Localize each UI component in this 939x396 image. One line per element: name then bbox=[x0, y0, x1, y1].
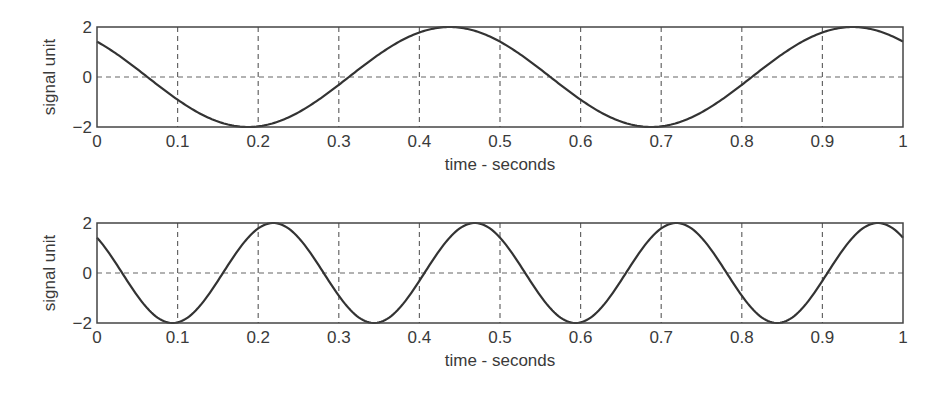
x-tick-label: 0.1 bbox=[166, 328, 190, 347]
x-tick-label: 0.3 bbox=[327, 328, 351, 347]
x-tick-label: 0.2 bbox=[246, 132, 270, 151]
x-tick-label: 0.6 bbox=[569, 328, 593, 347]
x-tick-label: 0.4 bbox=[408, 132, 432, 151]
y-tick-label: −2 bbox=[73, 314, 92, 333]
y-tick-label: 2 bbox=[83, 214, 92, 233]
y-axis-label: signal unit bbox=[40, 234, 59, 311]
x-axis-label: time - seconds bbox=[445, 155, 556, 174]
x-tick-label: 1 bbox=[898, 328, 907, 347]
y-tick-label: 2 bbox=[83, 18, 92, 37]
x-tick-label: 0.8 bbox=[730, 328, 754, 347]
y-tick-label: 0 bbox=[83, 68, 92, 87]
plot-bottom: 00.10.20.30.40.50.60.70.80.91−202time - … bbox=[40, 214, 908, 370]
y-tick-label: −2 bbox=[73, 118, 92, 137]
x-axis-label: time - seconds bbox=[445, 351, 556, 370]
y-tick-label: 0 bbox=[83, 264, 92, 283]
x-tick-label: 0.1 bbox=[166, 132, 190, 151]
x-tick-label: 0.7 bbox=[649, 132, 673, 151]
x-tick-label: 1 bbox=[898, 132, 907, 151]
x-tick-label: 0.3 bbox=[327, 132, 351, 151]
x-tick-label: 0.7 bbox=[649, 328, 673, 347]
chart-canvas: 00.10.20.30.40.50.60.70.80.91−202time - … bbox=[0, 0, 939, 396]
x-tick-label: 0.4 bbox=[408, 328, 432, 347]
x-tick-label: 0 bbox=[92, 132, 101, 151]
x-tick-label: 0.9 bbox=[811, 328, 835, 347]
x-tick-label: 0.6 bbox=[569, 132, 593, 151]
y-axis-label: signal unit bbox=[40, 38, 59, 115]
figure: 00.10.20.30.40.50.60.70.80.91−202time - … bbox=[0, 0, 939, 396]
x-tick-label: 0.5 bbox=[488, 132, 512, 151]
x-tick-label: 0 bbox=[92, 328, 101, 347]
x-tick-label: 0.8 bbox=[730, 132, 754, 151]
x-tick-label: 0.2 bbox=[246, 328, 270, 347]
x-tick-label: 0.9 bbox=[811, 132, 835, 151]
x-tick-label: 0.5 bbox=[488, 328, 512, 347]
plot-top: 00.10.20.30.40.50.60.70.80.91−202time - … bbox=[40, 18, 908, 174]
